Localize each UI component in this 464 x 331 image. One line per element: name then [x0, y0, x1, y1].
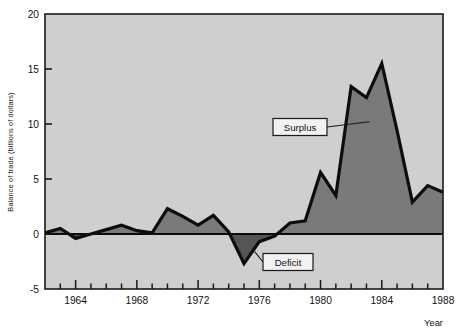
x-tick-label: 1988	[432, 295, 455, 306]
x-tick-label: 1976	[248, 295, 271, 306]
x-tick-label: 1984	[370, 295, 393, 306]
y-tick-label: 10	[28, 119, 40, 130]
x-tick-label: 1980	[309, 295, 332, 306]
y-tick-label: 20	[28, 9, 40, 20]
y-tick-label: 15	[28, 64, 40, 75]
y-axis-title: Balance of trade (billions of dollars)	[6, 92, 15, 211]
x-tick-label: 1964	[64, 295, 87, 306]
y-tick-label: 0	[33, 229, 39, 240]
x-axis-title: Year	[424, 317, 443, 328]
x-tick-label: 1968	[126, 295, 149, 306]
y-tick-label: 5	[33, 174, 39, 185]
deficit-callout-label: Deficit	[275, 257, 302, 268]
x-tick-label: 1972	[187, 295, 210, 306]
y-tick-label: -5	[30, 284, 39, 295]
chart-figure: 20151050-5 1964196819721976198019841988 …	[0, 0, 464, 331]
balance-of-trade-area-chart: 20151050-5 1964196819721976198019841988 …	[0, 0, 464, 331]
surplus-callout-label: Surplus	[284, 122, 317, 133]
